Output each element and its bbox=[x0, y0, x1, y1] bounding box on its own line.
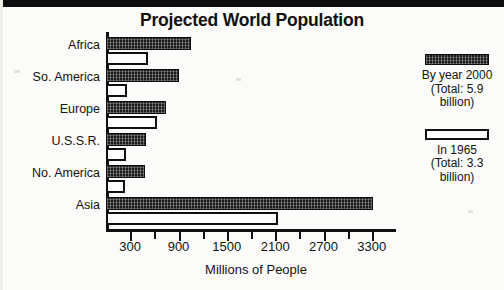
bar-asia-year1965 bbox=[106, 212, 278, 225]
x-tick-label-1500: 1500 bbox=[212, 239, 241, 254]
bar-so-america-year2000 bbox=[106, 69, 179, 82]
x-tick-label-300: 300 bbox=[119, 239, 141, 254]
legend-total-1-line1: (Total: 5.9 bbox=[414, 83, 500, 97]
x-tick-label-3300: 3300 bbox=[357, 239, 386, 254]
bar-no-america-year2000 bbox=[106, 165, 145, 178]
x-tick-label-900: 900 bbox=[168, 239, 190, 254]
category-label-so-america: So. America bbox=[33, 70, 100, 84]
bar-u-s-s-r-year1965 bbox=[106, 148, 126, 161]
bar-africa-year2000 bbox=[106, 37, 191, 50]
chart-figure: Projected World Population AfricaSo. Ame… bbox=[0, 0, 504, 290]
bar-africa-year1965 bbox=[106, 52, 148, 65]
scan-edge-artifact bbox=[0, 0, 504, 7]
x-tick-3000 bbox=[348, 232, 350, 239]
bar-u-s-s-r-year2000 bbox=[106, 133, 146, 146]
bar-asia-year2000 bbox=[106, 197, 373, 210]
category-label-u-s-s-r: U.S.S.R. bbox=[51, 134, 100, 148]
bar-europe-year1965 bbox=[106, 116, 157, 129]
chart-title: Projected World Population bbox=[0, 10, 504, 31]
scan-speck bbox=[468, 210, 473, 213]
x-tick-label-2100: 2100 bbox=[261, 239, 290, 254]
legend-total-2-line2: billion) bbox=[414, 171, 500, 185]
bar-no-america-year1965 bbox=[106, 180, 125, 193]
x-tick-600 bbox=[154, 232, 156, 239]
x-tick-2400 bbox=[299, 232, 301, 239]
category-label-no-america: No. America bbox=[32, 166, 100, 180]
legend-entry-in-1965: In 1965 (Total: 3.3 billion) bbox=[414, 129, 500, 185]
legend-label-1: By year 2000 bbox=[414, 69, 500, 83]
plot-area bbox=[106, 32, 410, 232]
scan-speck bbox=[14, 70, 20, 73]
x-tick-1200 bbox=[203, 232, 205, 239]
legend-total-1-line2: billion) bbox=[414, 96, 500, 110]
legend-total-2-line1: (Total: 3.3 bbox=[414, 157, 500, 171]
bar-so-america-year1965 bbox=[106, 84, 127, 97]
category-label-africa: Africa bbox=[68, 38, 100, 52]
category-label-europe: Europe bbox=[60, 102, 100, 116]
legend-swatch-light bbox=[425, 129, 489, 140]
legend: By year 2000 (Total: 5.9 billion) In 196… bbox=[414, 54, 500, 184]
x-tick-label-2700: 2700 bbox=[309, 239, 338, 254]
legend-label-2: In 1965 bbox=[414, 144, 500, 158]
category-label-asia: Asia bbox=[76, 198, 100, 212]
bar-europe-year2000 bbox=[106, 101, 166, 114]
page-edge-artifact bbox=[0, 0, 3, 290]
x-tick-1800 bbox=[251, 232, 253, 239]
x-axis-title: Millions of People bbox=[106, 262, 406, 277]
legend-swatch-dark bbox=[425, 54, 489, 65]
legend-entry-by-year-2000: By year 2000 (Total: 5.9 billion) bbox=[414, 54, 500, 110]
